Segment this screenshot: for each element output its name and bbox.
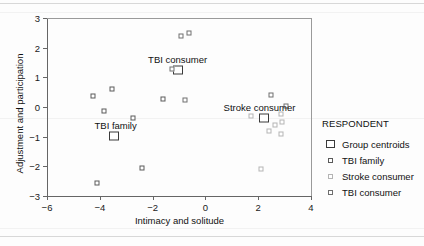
data-point (280, 119, 285, 124)
x-axis-title: Intimacy and solitude (47, 215, 312, 226)
tbi-consumer-key (322, 190, 338, 195)
data-point (258, 167, 263, 172)
y-tick-label: −1 (29, 131, 40, 142)
legend-title: RESPONDENT (322, 118, 422, 129)
scatter-plot-figure: −3−2−10123 −6−4−2024 TBI consumerTBI fam… (0, 0, 424, 246)
y-tick (43, 18, 47, 19)
data-point (266, 129, 271, 134)
y-axis-title: Adjustment and participation (14, 39, 25, 189)
data-point (109, 132, 119, 141)
y-tick (43, 48, 47, 49)
x-tick (205, 196, 206, 200)
x-tick-label: −6 (42, 202, 53, 213)
plot-border-right (311, 18, 312, 197)
x-tick (47, 196, 48, 200)
y-tick (43, 107, 47, 108)
legend: RESPONDENT Group centroidsTBI familyStro… (322, 118, 422, 200)
legend-item-label: TBI consumer (342, 187, 401, 198)
legend-item[interactable]: TBI consumer (322, 184, 422, 200)
figure-top-rule (0, 3, 424, 4)
group-centroids-key (322, 140, 338, 148)
data-point (272, 123, 277, 128)
data-point (101, 108, 106, 113)
legend-entries: Group centroidsTBI familyStroke consumer… (322, 136, 422, 200)
scan-artifact (0, 228, 424, 229)
data-point (182, 98, 187, 103)
data-point (169, 67, 174, 72)
data-point (248, 113, 253, 118)
y-tick (43, 166, 47, 167)
y-tick-label: 1 (35, 72, 40, 83)
x-tick-label: 0 (203, 202, 208, 213)
data-point (109, 87, 114, 92)
data-point (269, 92, 274, 97)
data-point (94, 180, 99, 185)
y-tick-label: 2 (35, 42, 40, 53)
x-tick (258, 196, 259, 200)
data-point (259, 114, 269, 123)
x-tick-label: −4 (94, 202, 105, 213)
legend-item-label: Group centroids (342, 139, 410, 150)
data-point (187, 30, 192, 35)
y-tick-label: −2 (29, 161, 40, 172)
scan-artifact (0, 12, 424, 13)
cluster-label: TBI family (95, 120, 137, 131)
y-tick-label: 0 (35, 102, 40, 113)
y-tick (43, 77, 47, 78)
y-tick (43, 137, 47, 138)
stroke-consumer-key (322, 174, 338, 179)
marker-swatch (328, 158, 333, 163)
plot-border-top (47, 18, 312, 19)
data-point (179, 33, 184, 38)
x-tick-label: 4 (308, 202, 313, 213)
figure-bottom-rule (0, 236, 424, 237)
x-tick (153, 196, 154, 200)
x-tick (311, 196, 312, 200)
data-point (278, 132, 283, 137)
y-axis-title-wrap: Adjustment and participation (6, 30, 20, 190)
x-tick-label: 2 (256, 202, 261, 213)
x-tick-label: −2 (147, 202, 158, 213)
data-point (173, 65, 183, 74)
legend-item[interactable]: Stroke consumer (322, 168, 422, 184)
legend-item-label: TBI family (342, 155, 384, 166)
data-point (139, 165, 144, 170)
marker-swatch (326, 140, 335, 148)
y-tick-label: −3 (29, 191, 40, 202)
x-tick (100, 196, 101, 200)
marker-swatch (328, 174, 333, 179)
legend-item[interactable]: TBI family (322, 152, 422, 168)
legend-item-label: Stroke consumer (342, 171, 414, 182)
cluster-label: Stroke consumer (224, 102, 296, 113)
data-point (91, 93, 96, 98)
y-tick-label: 3 (35, 13, 40, 24)
legend-item[interactable]: Group centroids (322, 136, 422, 152)
cluster-label: TBI consumer (148, 53, 207, 64)
marker-swatch (328, 190, 333, 195)
x-axis-line (47, 196, 312, 197)
tbi-family-key (322, 158, 338, 163)
data-point (160, 96, 165, 101)
y-axis-line (47, 18, 48, 197)
plot-area: −3−2−10123 −6−4−2024 TBI consumerTBI fam… (47, 18, 312, 197)
